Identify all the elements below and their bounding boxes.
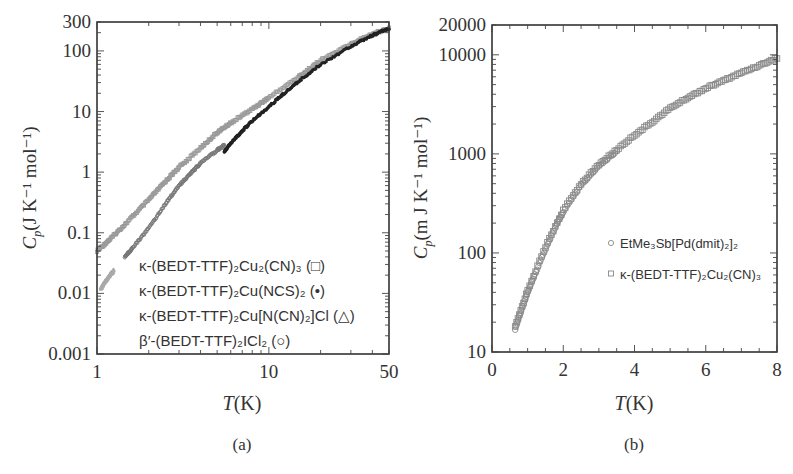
y-tick-label: 10 [72, 101, 91, 122]
plot-b-legend: EtMe₃Sb[Pd(dmit)₂]₂ κ-(BEDT-TTF)₂Cu₂(CN)… [608, 236, 761, 282]
x-tick-label: 8 [772, 359, 782, 380]
plot-b-tick-labels: 101001000100002000002468 [439, 14, 782, 380]
caption-b: (b) [624, 435, 644, 454]
series--bedt-ttf-2cu-n-cn-2-cl [99, 268, 115, 290]
x-tick-label: 0 [487, 359, 497, 380]
y-tick-label: 0.01 [58, 282, 91, 303]
x-tick-label: 2 [559, 359, 569, 380]
legend-b-item-1: EtMe₃Sb[Pd(dmit)₂]₂ [620, 236, 738, 251]
chart-panel-b: 101001000100002000002468 EtMe₃Sb[Pd(dmit… [410, 14, 782, 454]
plot-a-frame [97, 22, 389, 354]
x-axis-label-a: T(K) [223, 392, 262, 415]
legend-a-item-3: κ-(BEDT-TTF)₂Cu[N(CN)₂]Cl (△) [139, 307, 355, 324]
chart-panel-a: 0.0010.010.111010030011050 κ-(BEDT-TTF)₂… [19, 11, 399, 454]
legend-b-item-2: κ-(BEDT-TTF)₂Cu₂(CN)₃ [620, 267, 761, 282]
x-tick-label: 6 [701, 359, 711, 380]
y-tick-label: 300 [63, 11, 92, 32]
plot-a-ticks [97, 22, 389, 354]
legend-b-marker-circle-icon [608, 240, 613, 245]
series--bedt-ttf-2cu2-cn-3 [512, 55, 779, 329]
y-tick-label: 1000 [448, 143, 486, 164]
y-tick-label: 20000 [439, 14, 487, 35]
y-tick-label: 0.001 [48, 343, 91, 364]
legend-a-item-1: κ-(BEDT-TTF)₂Cu₂(CN)₃ (□) [139, 257, 325, 274]
x-axis-label-b: T(K) [615, 392, 654, 415]
x-tick-label: 10 [259, 361, 278, 382]
plot-a-legend: κ-(BEDT-TTF)₂Cu₂(CN)₃ (□) κ-(BEDT-TTF)₂C… [139, 257, 355, 349]
legend-a-item-2: κ-(BEDT-TTF)₂Cu(NCS)₂ (•) [139, 282, 325, 299]
caption-a: (a) [233, 435, 252, 454]
y-tick-label: 10 [467, 341, 486, 362]
plot-b-data [512, 55, 779, 332]
x-tick-label: 50 [380, 361, 399, 382]
x-tick-label: 4 [630, 359, 640, 380]
y-tick-label: 100 [63, 40, 92, 61]
series--bedt-ttf-2cu2-cn-3 [95, 26, 390, 254]
series--bedt-ttf-2cu-ncs-2 [223, 27, 391, 154]
legend-b-marker-square-icon [609, 271, 614, 276]
legend-a-item-4: β′-(BEDT-TTF)₂ICl₂ (○) [139, 332, 290, 349]
y-tick-label: 0.1 [67, 222, 91, 243]
y-tick-label: 1 [82, 161, 92, 182]
series--bedt-ttf-2icl2 [123, 143, 226, 259]
series-etme3sb-pd-dmit-2-2 [512, 148, 619, 332]
plot-a-data [95, 26, 390, 290]
x-tick-label: 1 [92, 361, 102, 382]
y-tick-label: 10000 [439, 44, 487, 65]
figure: 0.0010.010.111010030011050 κ-(BEDT-TTF)₂… [0, 0, 793, 474]
y-axis-label-b: Cp(m J K⁻¹ mol⁻¹) [410, 117, 435, 260]
y-axis-label-a: Cp(J K⁻¹ mol⁻¹) [19, 127, 44, 250]
y-tick-label: 100 [458, 242, 487, 263]
